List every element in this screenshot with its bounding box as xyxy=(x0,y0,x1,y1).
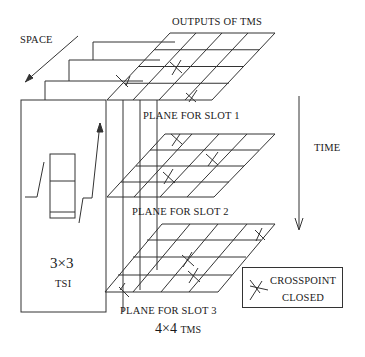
plane-slot-2-label: PLANE FOR SLOT 2 xyxy=(132,207,229,218)
time-label: TIME xyxy=(314,143,340,154)
outputs-label: OUTPUTS OF TMS xyxy=(172,17,262,28)
time-arrow xyxy=(295,96,303,230)
space-label: SPACE xyxy=(20,35,53,46)
plane-slot-3-label: PLANE FOR SLOT 3 xyxy=(120,306,217,317)
tsi-internal xyxy=(25,123,103,223)
tms-size: 4×4 xyxy=(155,321,177,336)
tms-size-label: 4×4 TMS xyxy=(155,322,201,336)
tms-text: TMS xyxy=(180,324,201,335)
legend-line2: CLOSED xyxy=(282,293,324,304)
tsi-label: TSI xyxy=(55,279,71,290)
plane-slot-2 xyxy=(107,134,275,197)
plane-slot-1-label: PLANE FOR SLOT 1 xyxy=(143,111,240,122)
legend-line1: CROSSPOINT xyxy=(270,276,336,287)
plane-slot-1 xyxy=(107,33,275,102)
tsi-size-label: 3×3 xyxy=(50,256,73,271)
